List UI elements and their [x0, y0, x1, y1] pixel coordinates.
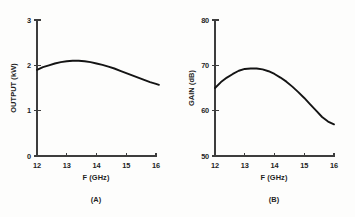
chart-panel-b: 50607080 1213141516 F (GHz) GAIN (dB) (B…	[178, 0, 355, 217]
chart-b-axes	[215, 20, 334, 156]
chart-a-data-curve	[37, 61, 159, 85]
chart-a-xlabel: F (GHz)	[83, 173, 110, 182]
chart-b-svg: 50607080 1213141516 F (GHz) GAIN (dB) (B…	[178, 0, 355, 217]
x-ticklabel-b-2: 14	[271, 161, 280, 170]
x-ticklabel-b-4: 16	[330, 161, 338, 170]
chart-a-y-ticklabels: 0123	[27, 16, 31, 161]
chart-a-ylabel: OUTPUT (kW)	[9, 63, 18, 113]
y-ticklabel-b-3: 80	[201, 16, 209, 25]
y-ticklabel-a-3: 3	[27, 16, 31, 25]
chart-a-svg: 0123 1213141516 F (GHz) OUTPUT (kW) (A)	[0, 0, 177, 217]
y-ticklabel-a-0: 0	[27, 152, 31, 161]
y-ticklabel-a-1: 1	[27, 106, 31, 115]
y-ticklabel-a-2: 2	[27, 61, 31, 70]
x-ticklabel-a-4: 16	[152, 161, 160, 170]
x-ticklabel-a-2: 14	[93, 161, 102, 170]
y-ticklabel-b-2: 70	[201, 61, 209, 70]
chart-a-x-ticklabels: 1213141516	[33, 161, 160, 170]
chart-a-caption: (A)	[91, 195, 102, 204]
x-ticklabel-a-1: 13	[63, 161, 71, 170]
chart-panel-a: 0123 1213141516 F (GHz) OUTPUT (kW) (A)	[0, 0, 177, 217]
x-ticklabel-a-3: 15	[122, 161, 130, 170]
chart-b-xlabel: F (GHz)	[261, 173, 288, 182]
chart-b-ylabel: GAIN (dB)	[187, 69, 196, 106]
x-ticklabel-b-3: 15	[300, 161, 308, 170]
chart-b-y-ticklabels: 50607080	[201, 16, 209, 161]
y-ticklabel-b-0: 50	[201, 152, 209, 161]
chart-a-axes	[37, 20, 156, 156]
chart-b-x-ticklabels: 1213141516	[211, 161, 338, 170]
y-ticklabel-b-1: 60	[201, 106, 209, 115]
x-ticklabel-b-0: 12	[211, 161, 219, 170]
x-ticklabel-b-1: 13	[241, 161, 249, 170]
chart-b-data-curve	[215, 69, 334, 125]
chart-b-caption: (B)	[269, 195, 280, 204]
figure-root: 0123 1213141516 F (GHz) OUTPUT (kW) (A) …	[0, 0, 355, 217]
x-ticklabel-a-0: 12	[33, 161, 41, 170]
